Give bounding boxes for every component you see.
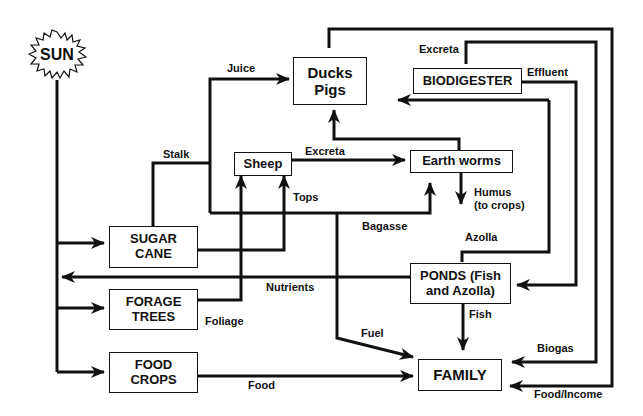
flow-label-nutrients: Nutrients xyxy=(266,281,314,294)
node-ponds: PONDS (Fish and Azolla) xyxy=(410,263,511,304)
flow-label-food-income: Food/Income xyxy=(534,388,602,401)
flow-label-juice: Juice xyxy=(227,62,255,75)
flow-label-tops: Tops xyxy=(293,191,318,204)
flow-label-fish: Fish xyxy=(469,308,492,321)
flow-label-foliage: Foliage xyxy=(205,315,244,328)
node-sugar-cane: SUGAR CANE xyxy=(109,226,198,268)
flow-label-excreta-sheep: Excreta xyxy=(305,145,345,158)
node-family: FAMILY xyxy=(418,359,502,391)
farming-system-diagram: SUN Ducks Pigs BIODIGESTER Sheep Earth w… xyxy=(0,0,643,416)
flow-label-bagasse: Bagasse xyxy=(362,220,407,233)
node-earth-worms: Earth worms xyxy=(410,150,513,173)
node-forage-trees: FORAGE TREES xyxy=(109,289,198,330)
flow-label-biogas: Biogas xyxy=(537,342,574,355)
flow-label-effluent: Effluent xyxy=(527,66,568,79)
node-biodigester: BIODIGESTER xyxy=(413,68,522,94)
flow-label-excreta-ducks: Excreta xyxy=(419,43,459,56)
flow-label-food: Food xyxy=(248,379,275,392)
node-ducks-pigs: Ducks Pigs xyxy=(293,57,367,105)
flow-label-azolla: Azolla xyxy=(465,231,497,244)
node-food-crops: FOOD CROPS xyxy=(109,352,198,393)
node-sheep: Sheep xyxy=(234,152,292,176)
flow-label-humus: Humus (to crops) xyxy=(474,186,525,212)
flow-label-fuel: Fuel xyxy=(361,327,384,340)
sun-label: SUN xyxy=(40,46,74,64)
flow-label-stalk: Stalk xyxy=(163,148,189,161)
